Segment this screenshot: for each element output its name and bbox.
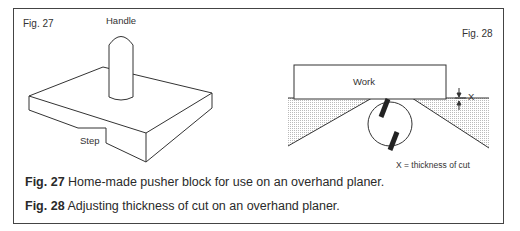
pusher-block-drawing <box>29 37 212 163</box>
caption-ref: Fig. 28 <box>25 199 65 213</box>
step-label: Step <box>80 135 100 146</box>
illustrations <box>0 0 520 231</box>
fig27-label: Fig. 27 <box>23 18 54 29</box>
caption-text: Home-made pusher block for use on an ove… <box>68 175 384 189</box>
handle-label: Handle <box>106 15 136 26</box>
planer-drawing <box>288 65 489 150</box>
caption-fig27: Fig. 27 Home-made pusher block for use o… <box>25 175 384 189</box>
fig28-label: Fig. 28 <box>462 28 493 39</box>
caption-text: Adjusting thickness of cut on an overhan… <box>67 199 339 213</box>
x-legend: X = thickness of cut <box>396 160 470 170</box>
work-label: Work <box>353 76 375 87</box>
caption-ref: Fig. 27 <box>25 175 65 189</box>
caption-fig28: Fig. 28 Adjusting thickness of cut on an… <box>25 199 340 213</box>
x-marker-label: X <box>468 91 474 102</box>
